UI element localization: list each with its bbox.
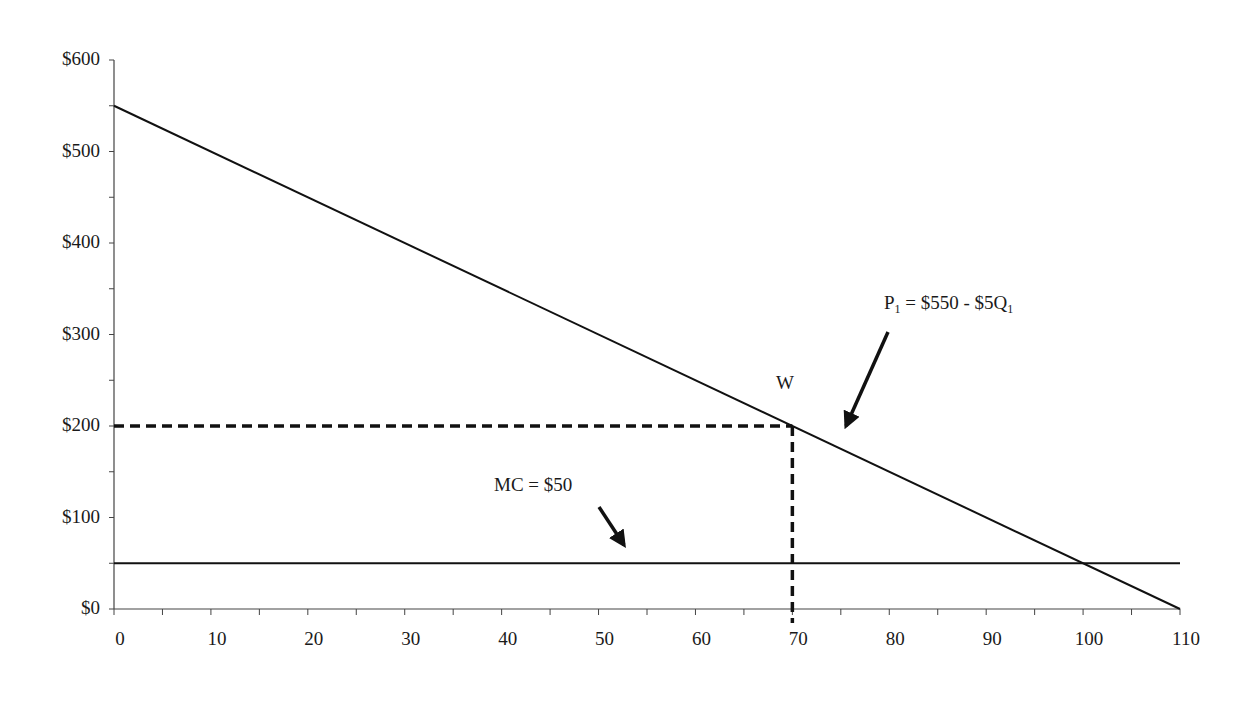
demand-equation-label: P1 = $550 - $5Q1 <box>884 292 1013 317</box>
x-tick-label: 110 <box>1156 628 1216 650</box>
x-tick-label: 90 <box>962 628 1022 650</box>
series-lines <box>114 106 1180 623</box>
y-tick-label: $500 <box>30 140 100 162</box>
point-w-label: W <box>776 372 794 394</box>
demand-arrow-icon <box>846 332 888 426</box>
x-tick-label: 10 <box>187 628 247 650</box>
y-tick-label: $400 <box>30 231 100 253</box>
x-tick-label: 60 <box>671 628 731 650</box>
x-tick-label: 20 <box>284 628 344 650</box>
x-tick-label: 30 <box>381 628 441 650</box>
x-tick-label: 50 <box>575 628 635 650</box>
y-tick-label: $200 <box>30 414 100 436</box>
axes <box>109 60 1180 615</box>
demand-sub2: 1 <box>1007 302 1013 316</box>
x-tick-label: 40 <box>478 628 538 650</box>
chart-area: $0$100$200$300$400$500$600 0102030405060… <box>0 0 1238 702</box>
x-tick-label: 70 <box>768 628 828 650</box>
demand-p: P <box>884 292 895 313</box>
annotation-arrows <box>599 332 888 545</box>
mc-arrow-icon <box>599 507 624 545</box>
x-tick-label: 0 <box>90 628 150 650</box>
y-tick-label: $100 <box>30 506 100 528</box>
x-tick-label: 80 <box>865 628 925 650</box>
demand-rest: = $550 - $5Q <box>901 292 1008 313</box>
plot-svg <box>0 0 1238 702</box>
mc-label: MC = $50 <box>494 474 572 496</box>
demand-line <box>114 106 1180 609</box>
x-tick-label: 100 <box>1059 628 1119 650</box>
y-tick-label: $0 <box>30 597 100 619</box>
y-tick-label: $600 <box>30 48 100 70</box>
y-tick-label: $300 <box>30 323 100 345</box>
